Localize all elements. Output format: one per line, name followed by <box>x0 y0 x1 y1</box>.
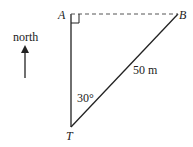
label-B: B <box>179 9 186 21</box>
label-angle: 30° <box>77 92 94 104</box>
label-A: A <box>58 9 65 21</box>
north-arrow-icon <box>21 45 29 53</box>
label-north: north <box>13 31 38 43</box>
line-TB <box>71 14 178 127</box>
label-T: T <box>66 130 73 142</box>
label-distance: 50 m <box>133 64 157 76</box>
right-angle-marker <box>71 14 79 23</box>
triangle-diagram <box>0 0 193 147</box>
